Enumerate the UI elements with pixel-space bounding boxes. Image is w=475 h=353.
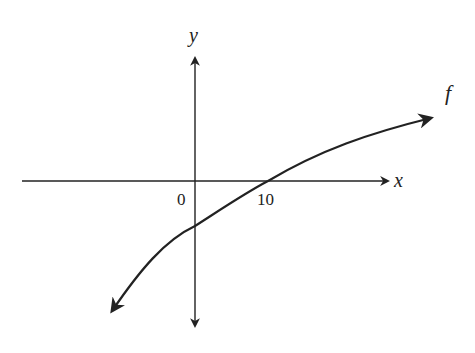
function-label-f: f — [445, 80, 454, 105]
function-curve-f — [112, 118, 431, 311]
function-graph: y x 0 10 f — [0, 0, 475, 353]
x-intercept-label: 10 — [257, 190, 274, 209]
x-axis-label: x — [393, 169, 403, 191]
origin-label: 0 — [177, 190, 186, 209]
y-axis-label: y — [187, 24, 198, 47]
